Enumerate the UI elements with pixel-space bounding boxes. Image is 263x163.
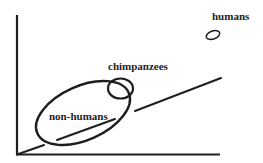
trend-line-segment <box>17 145 44 155</box>
diagram-canvas: humans chimpanzees non-humans <box>0 0 263 163</box>
trend-line-segment <box>135 78 221 111</box>
chimpanzees-label: chimpanzees <box>108 60 169 72</box>
diagram-svg: humans chimpanzees non-humans <box>0 0 263 163</box>
trend-line-segment <box>57 119 115 140</box>
non-humans-label: non-humans <box>49 110 108 122</box>
humans-label: humans <box>212 10 250 22</box>
chimpanzees-ellipse <box>108 79 133 99</box>
humans-ellipse <box>205 29 221 41</box>
